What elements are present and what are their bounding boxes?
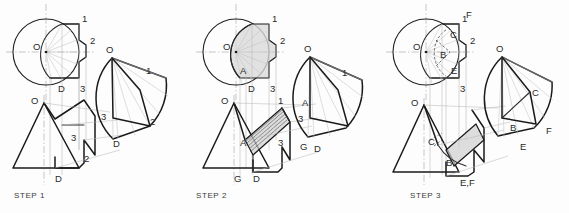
step1-top-label-D: D — [58, 83, 65, 94]
step1-projection-lines — [50, 24, 86, 175]
step-3-caption: STEP 3 — [410, 191, 441, 200]
step2-dev-label-G: G — [300, 141, 307, 152]
step3-top-arc — [421, 24, 442, 78]
step3-dev-label-F: F — [546, 125, 552, 136]
step1-radial-lines — [46, 24, 79, 84]
step3-top-label-B: B — [440, 49, 446, 60]
step1-center-dot — [45, 51, 48, 54]
step1-dev-label-3: 3 — [101, 111, 106, 122]
step3-front-label-EF: E,F — [460, 177, 475, 188]
step2-dev-label-D: D — [314, 143, 321, 154]
step3-dev-label-B: B — [510, 122, 516, 133]
step3-top-label-E: E — [451, 65, 457, 76]
step3-dev-label-C: C — [532, 87, 539, 98]
step2-front-label-3: 3 — [278, 137, 283, 148]
step1-dev-label-1: 1 — [146, 65, 151, 76]
step-1-caption: STEP 1 — [14, 191, 45, 200]
step3-development-edge — [502, 92, 530, 118]
step1-top-arc — [41, 24, 62, 78]
step2-front-label-A: A — [240, 137, 247, 148]
step2-top-label-2: 2 — [280, 35, 285, 46]
step2-front-label-O: O — [221, 95, 228, 106]
step2-top-label-3: 3 — [270, 83, 275, 94]
step-1-panel: O 1 2 3 D O 2 3 D — [0, 0, 190, 213]
step1-front-cone — [13, 103, 79, 168]
step1-front-label-3: 3 — [71, 132, 76, 143]
step3-top-label-2: 2 — [470, 35, 475, 46]
step2-dev-label-3: 3 — [298, 113, 303, 124]
step1-front-label-2: 2 — [84, 153, 89, 164]
step-3-panel: O 1 2 3 F C B E O C B E,F — [380, 0, 569, 213]
step2-front-label-D: D — [253, 173, 260, 184]
step3-top-solid-outline — [430, 24, 466, 78]
step3-development-generators — [498, 57, 553, 137]
step3-top-label-C: C — [450, 29, 457, 40]
step2-front-label-1: 1 — [278, 95, 283, 106]
drawing-sheet: O 1 2 3 D O 2 3 D — [0, 0, 569, 213]
step3-development-outline — [484, 57, 552, 136]
step1-dev-label-O: O — [106, 44, 113, 55]
step2-dev-label-O: O — [304, 43, 311, 54]
step3-front-label-O: O — [411, 97, 418, 108]
step1-front-label-O: O — [31, 95, 38, 106]
step3-front-label-C: C — [428, 136, 435, 147]
step1-dev-label-2: 2 — [150, 116, 155, 127]
step2-dev-label-A: A — [302, 97, 309, 108]
step2-top-label-D: D — [248, 83, 255, 94]
step1-top-label-3: 3 — [80, 83, 85, 94]
step1-dev-label-D: D — [113, 138, 120, 149]
step3-dev-label-E: E — [520, 141, 526, 152]
step2-top-label-O: O — [223, 41, 230, 52]
step2-top-label-1: 1 — [272, 13, 277, 24]
step3-center-dot — [425, 51, 428, 54]
step1-development-generators — [112, 58, 168, 139]
step2-front-label-G: G — [234, 173, 241, 184]
step3-front-label-B: B — [446, 157, 452, 168]
step2-center-dot — [235, 51, 238, 54]
step2-dev-label-1: 1 — [342, 67, 347, 78]
step1-top-label-2: 2 — [90, 35, 95, 46]
step3-top-label-O: O — [413, 41, 420, 52]
step3-top-label-F: F — [466, 9, 472, 20]
step-2-caption: STEP 2 — [196, 191, 227, 200]
step1-top-label-1: 1 — [82, 13, 87, 24]
step3-dev-label-O: O — [496, 43, 503, 54]
step2-top-label-A: A — [240, 65, 247, 76]
step3-top-label-3: 3 — [460, 83, 465, 94]
step1-development-outline — [96, 58, 166, 139]
step1-top-solid-outline — [50, 24, 86, 78]
step-2-panel: O 1 2 3 A D O 1 3 A G D — [190, 0, 380, 213]
step1-front-label-D: D — [55, 173, 62, 184]
step1-top-label-O: O — [33, 41, 40, 52]
